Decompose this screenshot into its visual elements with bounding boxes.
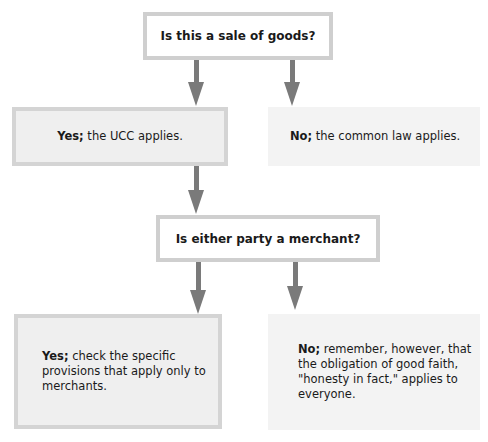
answer-lead: No; (290, 129, 312, 143)
answer-lead: Yes; (57, 129, 84, 143)
answer-text: No; remember, however, that the obligati… (298, 342, 472, 402)
question-merchant: Is either party a merchant? (156, 215, 380, 262)
question-sale-of-goods: Is this a sale of goods? (143, 12, 333, 60)
answer-yes-ucc-applies: Yes; the UCC applies. (12, 107, 228, 166)
answer-text: Yes; check the specific provisions that … (42, 349, 208, 394)
answer-lead: No; (298, 342, 320, 356)
question-text: Is this a sale of goods? (161, 29, 316, 43)
answer-no-common-law: No; the common law applies. (268, 107, 480, 166)
answer-lead: Yes; (42, 349, 69, 363)
answer-no-good-faith: No; remember, however, that the obligati… (268, 314, 480, 430)
answer-yes-merchant-provisions: Yes; check the specific provisions that … (14, 314, 222, 429)
question-text: Is either party a merchant? (176, 232, 361, 246)
answer-text: No; the common law applies. (290, 129, 460, 144)
answer-text: Yes; the UCC applies. (57, 129, 183, 144)
